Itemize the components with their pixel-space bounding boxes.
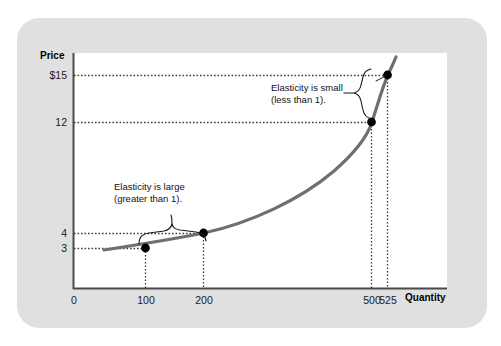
figure-root: Price Quantity $15 12 4 3 0 100 200 500 … [0,0,501,346]
brace-elasticity-large-stem [171,215,172,224]
brace-elasticity-small [354,69,372,119]
y-tick-label-3: 3 [34,242,67,254]
annotation-elasticity-large-line2: (greater than 1). [114,193,185,205]
annotation-elasticity-small-line1: Elasticity is small [271,82,343,94]
y-tick-label-12: 12 [34,116,67,128]
annotation-elasticity-large-line1: Elasticity is large [114,181,185,193]
annotation-elasticity-small-line2: (less than 1). [271,94,343,106]
y-tick-label-15: $15 [34,69,67,81]
x-axis-title: Quantity [405,292,446,303]
x-tick-label-100: 100 [131,294,161,306]
annotation-elasticity-large: Elasticity is large (greater than 1). [114,181,185,205]
x-tick-label-200: 200 [189,294,219,306]
origin-label: 0 [68,294,80,306]
y-axis-title: Price [40,50,64,61]
y-tick-label-4: 4 [34,227,67,239]
demand-curve [104,57,396,250]
data-point-100-3 [141,244,150,253]
annotation-elasticity-small: Elasticity is small (less than 1). [271,82,343,106]
x-tick-label-525: 525 [373,294,403,306]
